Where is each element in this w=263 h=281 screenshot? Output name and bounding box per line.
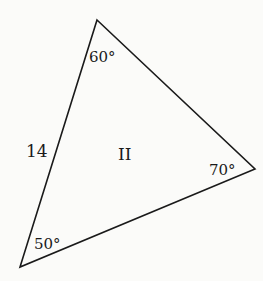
triangle-name-label: II <box>118 144 131 164</box>
side-length-label: 14 <box>26 141 48 161</box>
triangle-shape <box>20 20 255 267</box>
angle-label-right: 70° <box>209 161 236 179</box>
angle-label-top: 60° <box>89 48 116 66</box>
diagram-canvas: 60° 70° 50° 14 II <box>0 0 263 281</box>
angle-label-bottom-left: 50° <box>34 235 61 253</box>
triangle-diagram: 60° 70° 50° 14 II <box>0 0 263 281</box>
